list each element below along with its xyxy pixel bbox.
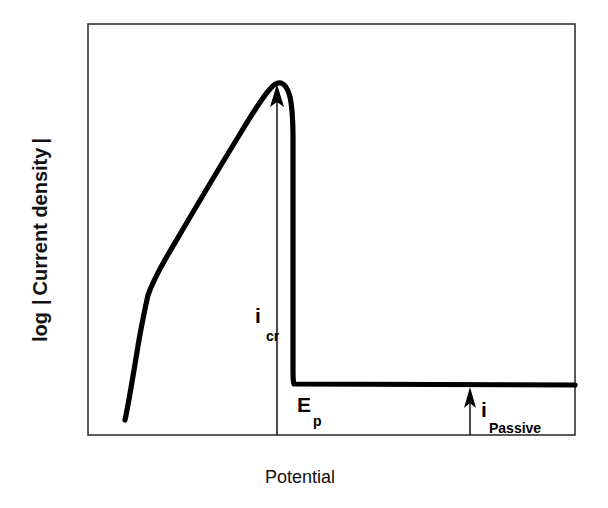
- y-axis-label-prefix: log: [29, 312, 51, 342]
- y-axis-label-group: log|Current density|: [29, 138, 51, 342]
- y-axis-label: log|Current density|: [29, 138, 51, 342]
- polarization-curve-figure: i cr E p i Passive log|Current density| …: [0, 0, 608, 508]
- y-axis-label-quantity: Current density: [29, 147, 51, 296]
- i-passive-subscript: Passive: [489, 420, 541, 436]
- y-axis-label-close-bar: |: [29, 138, 51, 144]
- e-p-symbol: E: [297, 393, 311, 416]
- i-cr-subscript: cr: [266, 328, 280, 344]
- y-axis-label-open-bar: |: [29, 299, 51, 305]
- i-passive-symbol: i: [481, 398, 487, 421]
- anodic-polarization-chart: i cr E p i Passive log|Current density| …: [0, 0, 608, 508]
- i-cr-symbol: i: [255, 304, 261, 327]
- e-p-subscript: p: [313, 413, 322, 429]
- x-axis-label: Potential: [265, 467, 335, 487]
- plot-frame: [88, 24, 575, 435]
